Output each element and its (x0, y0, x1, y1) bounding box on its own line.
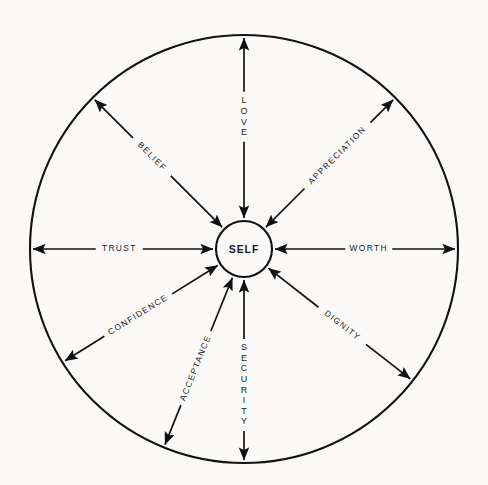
spoke-arrow-outward (370, 100, 393, 123)
spoke-appreciation: APPRECIATION (266, 100, 393, 227)
spoke-arrow-outward (95, 100, 133, 138)
spoke-label-letter: R (241, 385, 248, 395)
spoke-arrow-inward (268, 268, 318, 307)
spoke-label-letter: T (241, 406, 247, 416)
spoke-dignity: DIGNITY (268, 268, 410, 379)
spoke-love: LOVE (240, 38, 247, 218)
spoke-label-letter: L (241, 95, 246, 105)
spoke-arrow-inward (172, 265, 218, 293)
spoke-security: SECURITY (241, 280, 248, 460)
wheel-canvas: LOVEAPPRECIATIONWORTHDIGNITYSECURITYACCE… (0, 0, 488, 485)
spoke-acceptance: ACCEPTANCE (165, 278, 232, 445)
spoke-label: WORTH (350, 243, 388, 253)
spoke-label-letter: V (241, 117, 247, 127)
spoke-belief: BELIEF (95, 100, 222, 227)
spoke-label: APPRECIATION (306, 124, 368, 186)
spoke-arrow-inward (266, 188, 305, 227)
self-hub-label: SELF (229, 243, 259, 255)
spoke-arrow-inward (171, 176, 222, 227)
spoke-label-letter: U (241, 374, 248, 384)
spoke-label-letter: S (241, 342, 247, 352)
spoke-label-letter: O (240, 106, 247, 116)
self-esteem-wheel-diagram: LOVEAPPRECIATIONWORTHDIGNITYSECURITYACCE… (0, 0, 488, 485)
spoke-worth: WORTH (275, 243, 455, 253)
spoke-label: CONFIDENCE (106, 292, 170, 337)
spoke-label: DIGNITY (323, 308, 363, 343)
spoke-arrow-outward (165, 405, 181, 444)
spoke-arrow-outward (65, 336, 104, 361)
spoke-arrow-outward (366, 344, 410, 379)
spoke-arrow-inward (211, 278, 233, 331)
spoke-label-letter: I (243, 395, 246, 405)
spoke-label: BELIEF (136, 140, 169, 173)
spoke-confidence: CONFIDENCE (65, 265, 218, 360)
spoke-label-letter: E (241, 127, 247, 137)
spoke-label-letter: C (241, 363, 248, 373)
spoke-label-letter: Y (241, 416, 247, 426)
spoke-label: TRUST (102, 243, 137, 253)
spoke-label: ACCEPTANCE (177, 333, 213, 402)
spoke-label-letter: E (241, 353, 247, 363)
spoke-trust: TRUST (33, 243, 213, 253)
